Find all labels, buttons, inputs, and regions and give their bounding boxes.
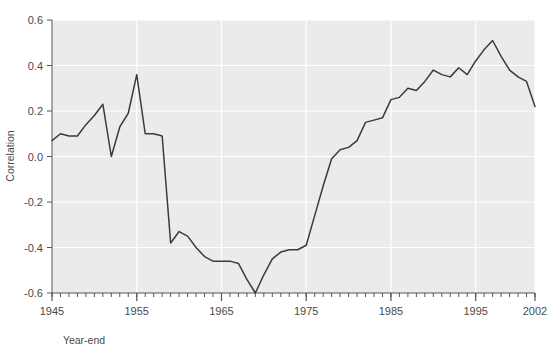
x-axis-tick-label: 2002	[523, 305, 547, 317]
x-axis-tick-label: 1995	[463, 305, 487, 317]
y-axis-tick-label: 0.2	[28, 105, 43, 117]
correlation-line-chart: -0.6-0.4-0.20.00.20.40.6 194519551965197…	[0, 0, 548, 355]
x-axis-tick-label: 1985	[379, 305, 403, 317]
x-axis-tick-label: 1955	[124, 305, 148, 317]
y-axis-title: Correlation	[4, 130, 16, 182]
x-axis-tick-label: 1975	[294, 305, 318, 317]
y-axis-tick-label: 0.0	[28, 151, 43, 163]
y-axis-tick-label: 0.4	[28, 60, 43, 72]
y-axis-tick-label: -0.2	[24, 196, 43, 208]
y-axis-tick-label: 0.6	[28, 14, 43, 26]
chart-figure: -0.6-0.4-0.20.00.20.40.6 194519551965197…	[0, 0, 548, 355]
x-axis-tick-label: 1945	[40, 305, 64, 317]
x-axis-title: Year-end	[63, 334, 105, 346]
x-axis-tick-label: 1965	[209, 305, 233, 317]
y-axis-tick-label: -0.6	[24, 287, 43, 299]
y-axis-tick-label: -0.4	[24, 242, 43, 254]
